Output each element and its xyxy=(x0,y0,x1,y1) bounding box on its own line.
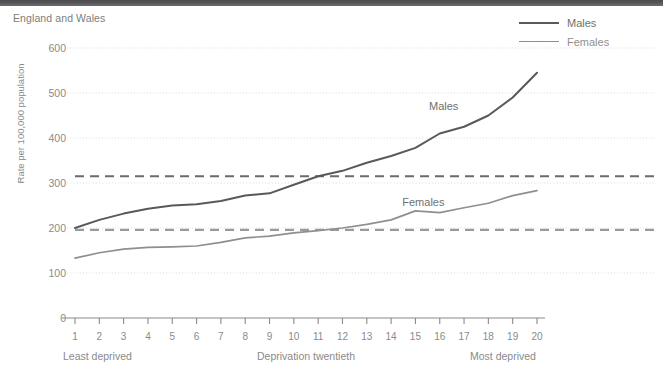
x-axis-right-note: Most deprived xyxy=(470,350,536,362)
x-axis-tick-label: 19 xyxy=(507,331,518,342)
x-axis-tick-label: 8 xyxy=(242,331,248,342)
x-axis-title: Deprivation twentieth xyxy=(257,350,355,362)
series-annotation-males: Males xyxy=(429,100,458,112)
x-axis-tick-label: 9 xyxy=(267,331,273,342)
x-axis-tick-label: 15 xyxy=(410,331,421,342)
y-axis-tick-label: 200 xyxy=(48,222,66,234)
chart-figure: England and Wales Rate per 100,000 popul… xyxy=(0,0,663,376)
series-annotation-females: Females xyxy=(402,196,444,208)
series-line-females xyxy=(75,191,537,259)
x-axis-tick-label: 12 xyxy=(337,331,348,342)
x-axis-tick-label: 18 xyxy=(483,331,494,342)
x-axis-left-note: Least deprived xyxy=(63,350,132,362)
x-axis-tick-label: 6 xyxy=(194,331,200,342)
x-axis-tick-label: 11 xyxy=(313,331,323,342)
y-axis-tick-label: 100 xyxy=(48,267,66,279)
series-line-males xyxy=(75,73,537,228)
x-axis-tick-label: 17 xyxy=(458,331,469,342)
plot-area xyxy=(0,0,663,376)
x-axis-tick-label: 2 xyxy=(97,331,103,342)
x-axis-tick-label: 7 xyxy=(218,331,224,342)
x-axis-tick-label: 1 xyxy=(72,331,78,342)
x-axis-tick-label: 13 xyxy=(361,331,372,342)
y-axis-tick-label: 0 xyxy=(60,312,66,324)
y-axis-tick-label: 500 xyxy=(48,87,66,99)
x-axis-tick-label: 14 xyxy=(386,331,397,342)
x-axis-tick-label: 10 xyxy=(288,331,299,342)
y-axis-tick-label: 300 xyxy=(48,177,66,189)
y-axis-tick-label: 600 xyxy=(48,42,66,54)
x-axis-tick-label: 5 xyxy=(169,331,175,342)
x-axis-tick-label: 16 xyxy=(434,331,445,342)
x-axis-tick-label: 4 xyxy=(145,331,151,342)
y-axis-tick-label: 400 xyxy=(48,132,66,144)
x-axis-tick-label: 20 xyxy=(531,331,542,342)
x-axis-tick-label: 3 xyxy=(121,331,127,342)
